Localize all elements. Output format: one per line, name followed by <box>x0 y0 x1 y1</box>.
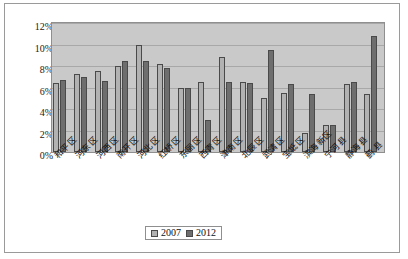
y-axis-tick-label: 8% <box>19 65 53 75</box>
bar-group <box>260 23 281 152</box>
y-axis-tick-label: 2% <box>19 130 53 140</box>
bar-group <box>114 23 135 152</box>
bar-group <box>197 23 218 152</box>
bar-group <box>177 23 198 152</box>
bar-series-container <box>52 23 384 152</box>
legend-swatch-icon <box>186 230 193 237</box>
y-axis-tick-label: 12% <box>19 22 53 32</box>
bar-group <box>343 23 364 152</box>
y-axis: 12%10%8%6%4%2%0% <box>19 16 53 159</box>
chart-legend: 20072012 <box>145 226 222 240</box>
bar-group <box>156 23 177 152</box>
legend-swatch-icon <box>151 230 158 237</box>
bar-group <box>218 23 239 152</box>
bar-2012 <box>371 36 377 152</box>
x-axis-labels: 和平区河东区河西区南开区河北区红桥区东丽区西青区津南区北辰区武清区宝坻区滨海新区… <box>51 154 385 212</box>
plot-area <box>51 22 385 153</box>
y-axis-tick-label: 0% <box>19 151 53 161</box>
chart-frame: 12%10%8%6%4%2%0% 和平区河东区河西区南开区河北区红桥区东丽区西青… <box>4 3 400 253</box>
bar-2012 <box>143 61 149 152</box>
bar-group <box>239 23 260 152</box>
bar-group <box>363 23 384 152</box>
legend-item-2012: 2012 <box>186 228 216 238</box>
bar-group <box>301 23 322 152</box>
legend-item-2007: 2007 <box>151 228 181 238</box>
legend-label: 2007 <box>161 228 181 238</box>
bar-2012 <box>268 50 274 152</box>
y-axis-tick-label: 4% <box>19 108 53 118</box>
bar-2007 <box>136 45 142 153</box>
bar-group <box>135 23 156 152</box>
y-axis-tick-label: 10% <box>19 44 53 54</box>
bar-group <box>94 23 115 152</box>
legend-label: 2012 <box>196 228 216 238</box>
bar-2007 <box>53 83 59 152</box>
bar-group <box>73 23 94 152</box>
bar-group <box>280 23 301 152</box>
bar-group <box>52 23 73 152</box>
y-axis-tick-label: 6% <box>19 87 53 97</box>
